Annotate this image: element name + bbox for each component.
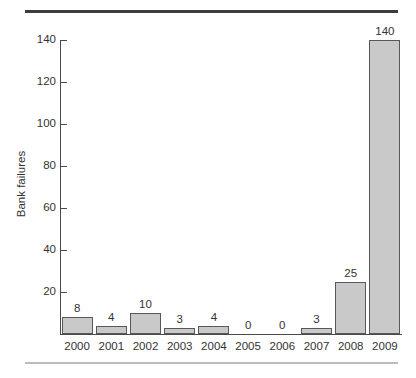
y-axis-tick-label-text: 60 <box>12 202 56 214</box>
y-axis-tick-mark <box>61 40 67 41</box>
y-axis-tick-label-text: 120 <box>12 76 56 88</box>
y-axis-tick-mark <box>61 292 67 293</box>
y-axis-tick-label: 120 <box>10 76 56 88</box>
bar[interactable] <box>96 326 127 334</box>
y-axis-tick-mark <box>61 82 67 83</box>
x-axis-line <box>60 334 402 335</box>
y-axis-line <box>60 40 61 335</box>
bottom-horizontal-rule <box>25 362 398 364</box>
bar-value-label: 3 <box>292 313 342 325</box>
y-axis-tick-mark <box>61 250 67 251</box>
bar-value-label: 10 <box>121 298 171 310</box>
y-axis-title: Bank failures <box>15 124 27 244</box>
y-axis-tick-label: 140 <box>10 34 56 46</box>
y-axis-tick-mark <box>61 208 67 209</box>
x-axis-tick-label: 2009 <box>360 340 410 352</box>
bar-value-label: 140 <box>360 25 410 37</box>
y-axis-tick-label-text: 140 <box>12 34 56 46</box>
y-axis-tick-label-text: 80 <box>12 160 56 172</box>
bar-value-label: 4 <box>86 311 136 323</box>
y-axis-tick-label: 80 <box>10 160 56 172</box>
bar[interactable] <box>164 328 195 334</box>
y-axis-tick-label: 40 <box>10 244 56 256</box>
y-axis-tick-label: 100 <box>10 118 56 130</box>
y-axis-tick-mark <box>61 124 67 125</box>
bank-failures-chart-figure: Bank failures 20406080100120140 84103400… <box>0 0 416 378</box>
y-axis-tick-label: 20 <box>10 286 56 298</box>
y-axis-tick-label-text: 20 <box>12 286 56 298</box>
y-axis-tick-label-text: 100 <box>12 118 56 130</box>
top-horizontal-rule <box>25 10 398 13</box>
bar[interactable] <box>301 328 332 334</box>
y-axis-tick-label-text: 40 <box>12 244 56 256</box>
y-axis-tick-mark <box>61 166 67 167</box>
y-axis-tick-label: 60 <box>10 202 56 214</box>
bar[interactable] <box>335 282 366 335</box>
bar[interactable] <box>369 40 400 334</box>
